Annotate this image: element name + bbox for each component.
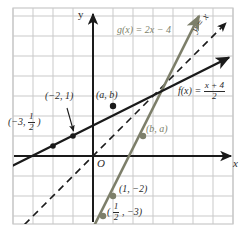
origin-label: O — [97, 158, 105, 169]
point-a-b — [110, 103, 116, 109]
x-axis-label: x — [233, 158, 238, 169]
point-1-neg2 — [110, 193, 116, 199]
label-point-half-neg3: ( 1 2 , −3) — [107, 203, 142, 222]
g-name: g(x) — [117, 24, 133, 35]
label-point-neg2-1: (−2, 1) — [45, 91, 73, 101]
neg3-close: ) — [37, 116, 40, 127]
point-half-neg3 — [100, 213, 106, 219]
point-neg2-1 — [70, 133, 76, 139]
g-equals: = — [136, 24, 143, 35]
half-open: ( — [107, 206, 110, 217]
g-rhs: 2x − 4 — [145, 24, 171, 35]
point-neg3-half — [50, 143, 56, 149]
half-rest: , −3) — [122, 206, 142, 217]
graph-figure: y x O g(x) = 2x − 4 y = x f(x) = x + 4 2… — [0, 0, 246, 232]
f-denominator: 2 — [204, 92, 225, 101]
y-axis-label: y — [78, 9, 84, 20]
f-fraction: x + 4 2 — [204, 81, 225, 100]
half-fraction: 1 2 — [113, 202, 120, 221]
label-point-1-neg2: (1, −2) — [119, 184, 147, 194]
neg3-denominator: 2 — [28, 123, 35, 132]
f-function-label: f(x) = x + 4 2 — [178, 82, 225, 101]
label-point-a-b: (a, b) — [96, 90, 118, 100]
half-denominator: 2 — [113, 213, 120, 222]
label-point-neg3-half: (−3, 1 2 ) — [8, 113, 41, 132]
neg3-fraction: 1 2 — [28, 112, 35, 131]
f-equals: = — [194, 85, 201, 96]
label-point-b-a: (b, a) — [146, 124, 168, 134]
neg3-open: (−3, — [8, 116, 26, 127]
f-name: f(x) — [178, 85, 192, 96]
g-function-label: g(x) = 2x − 4 — [117, 25, 171, 35]
